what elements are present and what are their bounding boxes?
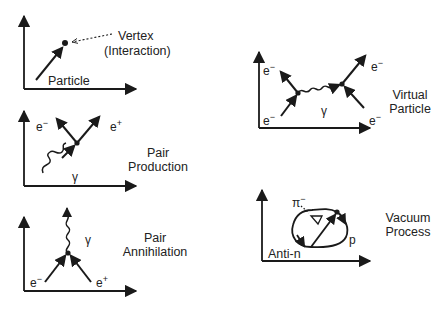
particle-label: Particle [48, 74, 90, 88]
virtual-particle-title-line2: Particle [389, 102, 431, 116]
electron-label-bottom-left: e− [263, 114, 275, 128]
electron-label-top-left: e− [263, 64, 275, 78]
panel-virtual-particle [259, 52, 370, 128]
feynman-diagrams-canvas [0, 0, 440, 315]
virtual-particle-title-line1: Virtual [392, 88, 427, 102]
vertex-dot-left [295, 90, 300, 95]
virtual-photon-wavy-line [298, 86, 334, 93]
positron-arrow [77, 117, 99, 143]
electron-arrow [57, 119, 77, 143]
pair-annihilation-title-line1: Pair [144, 231, 166, 245]
incoming-electron-right [345, 87, 364, 108]
pion-label: π− [292, 196, 306, 210]
vertex-dot [334, 209, 339, 214]
vacuum-process-title-line1: Vacuum [386, 211, 431, 225]
pair-production-title-line1: Pair [147, 146, 169, 160]
positron-arrow [71, 256, 91, 282]
proton-label: p [349, 233, 356, 247]
positron-label: e+ [110, 120, 122, 134]
vertex-dot [65, 250, 70, 255]
vertex-dot [74, 140, 79, 145]
virtual-photon-label: γ [321, 104, 327, 118]
incoming-electron-left [281, 96, 296, 116]
photon-direction-arrow [332, 85, 339, 88]
outgoing-electron-right [342, 56, 365, 84]
outgoing-electron-left [281, 72, 298, 93]
electron-label-top-right: e− [371, 60, 383, 74]
vertex-dot-right [339, 81, 344, 86]
interaction-label: (Interaction) [104, 44, 171, 58]
vertex-label: Vertex [118, 29, 153, 43]
vertex-pointer-arrow [72, 34, 112, 42]
photon-wavy-line [66, 214, 70, 253]
electron-label-bottom-right: e− [369, 114, 381, 128]
vacuum-process-title-line2: Process [385, 225, 430, 239]
pion-arrowhead-open [311, 216, 322, 224]
antineutron-label: Anti-n [268, 247, 301, 261]
vertex-dot [62, 40, 68, 46]
electron-arrow [45, 256, 65, 282]
pair-annihilation-title-line2: Annihilation [123, 245, 188, 259]
electron-label: e− [36, 120, 48, 134]
photon-label: γ [72, 170, 78, 184]
electron-label: e− [30, 276, 42, 290]
pair-production-title-line2: Production [128, 160, 188, 174]
photon-label: γ [85, 233, 91, 247]
positron-label: e+ [96, 276, 108, 290]
